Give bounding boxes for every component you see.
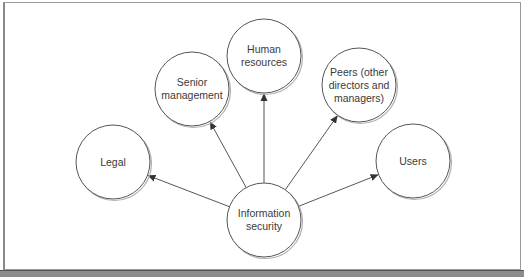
arrow-infosec-to-senior [210, 122, 246, 187]
node-label-human-resources: Human resources [234, 19, 294, 93]
node-label-users: Users [376, 124, 450, 198]
arrow-infosec-to-legal [148, 176, 229, 207]
bottom-bar [0, 270, 524, 277]
node-label-peers: Peers (other directors and managers) [325, 48, 393, 122]
node-label-senior-management: Senior management [155, 52, 229, 126]
node-label-information-security: Information security [232, 183, 296, 257]
node-label-legal: Legal [76, 125, 150, 199]
arrow-infosec-to-peers [285, 116, 337, 190]
arrow-infosec-to-users [298, 175, 377, 206]
